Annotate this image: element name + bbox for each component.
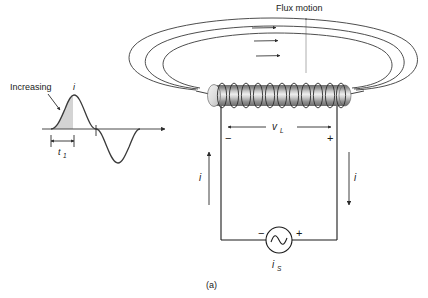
source-polarity-minus: − [258, 227, 264, 239]
flux-loop-middle [145, 26, 404, 89]
flux-motion-label: Flux motion [276, 3, 323, 13]
increasing-current-var: i [73, 82, 76, 92]
voltage-label-sub: L [280, 127, 284, 134]
t1-dimension: t 1 [51, 135, 74, 159]
waveform-plot: t 1 Increasing i [10, 82, 165, 163]
inductor-polarity-minus: − [225, 132, 231, 144]
inductor-polarity-plus: + [327, 132, 333, 144]
increasing-current-label: Increasing [10, 82, 52, 92]
current-arrow-right-group: i [349, 152, 357, 205]
waveform-shaded-area [51, 95, 73, 129]
t1-label-sub: 1 [63, 152, 67, 159]
t1-label: t [58, 147, 61, 157]
figure-canvas: Flux motion [0, 0, 428, 298]
source-label-sub: S [277, 265, 282, 272]
current-arrow-left-group: i [199, 152, 209, 205]
voltage-label: v [272, 121, 278, 132]
flux-loop-inner [163, 33, 392, 88]
increasing-current-leader [48, 94, 60, 110]
current-label-left: i [199, 172, 202, 183]
circuit-loop [221, 88, 337, 240]
flux-loop-group [129, 18, 417, 90]
inductor-flux-figure: Flux motion [0, 0, 428, 298]
flux-loop-outer [129, 18, 417, 90]
figure-caption: (a) [206, 280, 217, 290]
ac-source: − + i S [258, 227, 302, 272]
source-label: i [272, 259, 275, 270]
source-polarity-plus: + [296, 227, 302, 239]
current-label-right: i [354, 172, 357, 183]
voltage-dimension: v L [228, 121, 331, 134]
coil-assembly [208, 83, 352, 108]
